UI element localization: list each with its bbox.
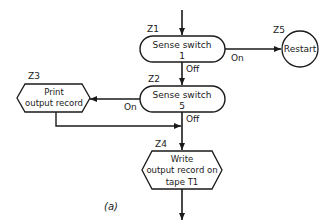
z3-line1: Print	[44, 87, 64, 97]
z3-id-label: Z3	[28, 71, 40, 81]
z1-line2: 1	[179, 51, 185, 61]
z5-label: Restart	[284, 44, 317, 54]
node-z2-sense-switch-5: Sense switch 5	[140, 86, 225, 112]
node-z4-write-output-tape: Write output record on tape T1	[142, 151, 222, 189]
z5-id-label: Z5	[273, 25, 285, 35]
z4-line1: Write	[171, 154, 193, 164]
edge-z3-to-z4	[56, 112, 181, 126]
z2-line2: 5	[179, 101, 185, 111]
node-z5-restart: Restart	[282, 31, 318, 67]
z1-line1: Sense switch	[153, 40, 212, 50]
edge-z2-off-label: Off	[186, 114, 200, 124]
node-z3-print-output-record: Print output record	[17, 84, 90, 112]
edge-z1-off-label: Off	[186, 64, 200, 74]
z4-line2: output record on	[146, 165, 217, 175]
edge-z1-on-label: On	[231, 53, 244, 63]
node-z1-sense-switch-1: Sense switch 1	[140, 36, 225, 62]
figure-caption: (a)	[104, 201, 118, 212]
z2-id-label: Z2	[148, 74, 160, 84]
flowchart: Sense switch 1 Z1 On Restart Z5 Off Sens…	[0, 0, 335, 224]
z4-id-label: Z4	[155, 139, 167, 149]
edge-z2-on-label: On	[124, 102, 137, 112]
z3-line2: output record	[25, 98, 83, 108]
z4-line3: tape T1	[166, 177, 198, 187]
z1-id-label: Z1	[147, 24, 159, 34]
z2-line1: Sense switch	[153, 90, 212, 100]
